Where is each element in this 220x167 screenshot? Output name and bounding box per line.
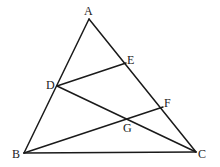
segment-BC	[24, 152, 196, 153]
segment-BF	[24, 107, 163, 153]
label-A: A	[84, 4, 93, 18]
label-E: E	[127, 53, 134, 67]
label-G: G	[123, 121, 132, 135]
label-C: C	[198, 147, 206, 161]
label-D: D	[46, 78, 55, 92]
label-B: B	[12, 147, 20, 161]
geometry-diagram: A B C D E F G	[0, 0, 220, 167]
segment-AC	[89, 19, 196, 152]
segment-DE	[57, 63, 126, 86]
label-F: F	[164, 96, 171, 110]
point-labels: A B C D E F G	[12, 4, 206, 161]
